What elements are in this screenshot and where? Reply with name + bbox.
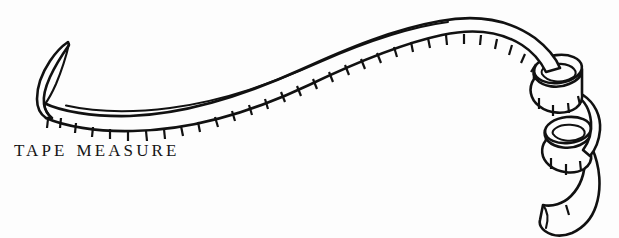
tape-measure-illustration (0, 0, 619, 238)
tape-measure-drawing (0, 0, 619, 238)
tick (428, 38, 430, 48)
tick (92, 127, 93, 137)
coil-lower-tick-3 (580, 161, 581, 171)
coil-upper-tick-3 (568, 103, 569, 113)
tick (164, 129, 165, 139)
hook-end-tick (47, 119, 48, 128)
coil-lower-group (542, 115, 592, 175)
tick (60, 118, 61, 128)
tick (480, 35, 481, 45)
caption-word-tape: TAPE (14, 141, 68, 160)
caption-word-measure: MEASURE (77, 141, 180, 160)
ribbon-group (44, 18, 560, 141)
tick (509, 45, 512, 55)
tick (146, 131, 147, 141)
tick (521, 54, 525, 63)
tick (446, 35, 447, 45)
tick (495, 39, 497, 49)
tick (75, 123, 76, 133)
caption-label: TAPEMEASURE (14, 141, 179, 161)
ribbon-body (44, 18, 560, 131)
